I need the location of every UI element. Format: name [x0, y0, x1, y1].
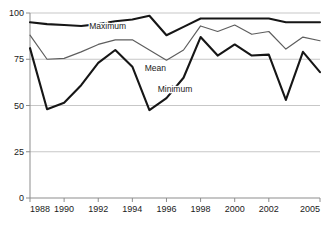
- y-axis-tick-labels: 0255075100: [9, 8, 24, 203]
- x-tick-label-1992: 1992: [88, 204, 108, 214]
- x-tick-label-2005: 2005: [300, 204, 320, 214]
- x-tick-label-2002: 2002: [259, 204, 279, 214]
- series-label-mean: Mean: [145, 63, 167, 73]
- x-tick-label-1996: 1996: [156, 204, 176, 214]
- series-line-minimum: [30, 37, 320, 110]
- x-axis-ticks: [30, 198, 320, 202]
- y-tick-label-75: 75: [14, 54, 24, 64]
- chart-canvas: 0255075100 19881990199219941996199820002…: [0, 0, 329, 227]
- series-label-maximum: Maximum: [89, 21, 126, 31]
- y-tick-label-50: 50: [14, 101, 24, 111]
- x-tick-label-2000: 2000: [225, 204, 245, 214]
- series-line-maximum: [30, 16, 320, 35]
- x-tick-label-1988: 1988: [30, 204, 50, 214]
- x-tick-label-1990: 1990: [54, 204, 74, 214]
- y-axis-ticks: [26, 13, 30, 198]
- x-axis-tick-labels: 198819901992199419961998200020022005: [30, 204, 320, 214]
- line-chart: 0255075100 19881990199219941996199820002…: [0, 0, 329, 227]
- y-tick-label-0: 0: [19, 193, 24, 203]
- series-label-minimum: Minimum: [158, 84, 192, 94]
- x-tick-label-1994: 1994: [122, 204, 142, 214]
- x-tick-label-1998: 1998: [191, 204, 211, 214]
- y-tick-label-25: 25: [14, 147, 24, 157]
- series-lines: [30, 16, 320, 110]
- y-tick-label-100: 100: [9, 8, 24, 18]
- gridlines: [30, 13, 320, 152]
